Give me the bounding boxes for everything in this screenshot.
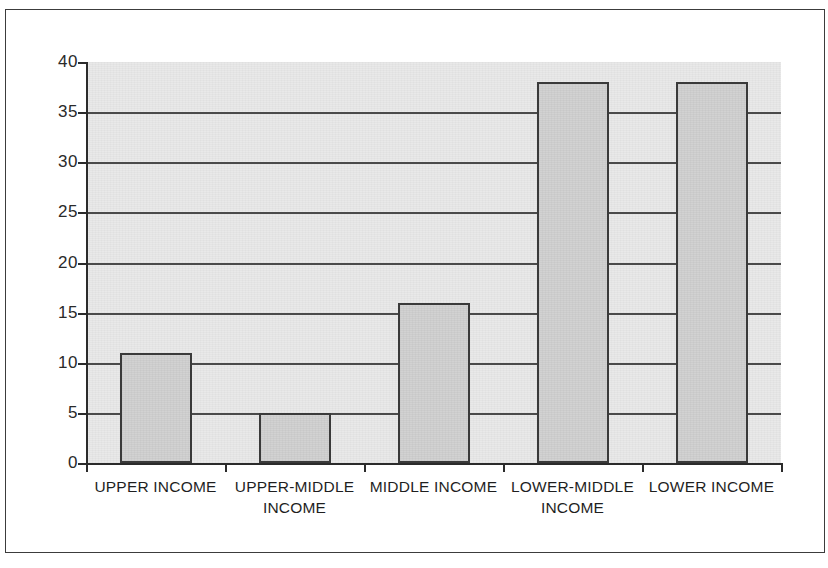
y-axis-tick-20 [78,263,87,265]
y-axis-tick-15 [78,313,87,315]
x-axis-tick-3 [503,463,505,472]
x-axis-tick-4 [642,463,644,472]
y-axis-tick-25 [78,212,87,214]
y-axis-label-40: 40 [30,53,78,70]
bar-texture [678,84,746,461]
bar-lower-middle-income [537,82,609,463]
x-axis-category-labels: UPPER INCOMEUPPER-MIDDLE INCOMEMIDDLE IN… [86,476,783,546]
x-axis-label-upper-middle-income: UPPER-MIDDLE INCOME [221,476,368,518]
y-axis-tick-10 [78,363,87,365]
y-axis-label-10: 10 [30,354,78,371]
bar-lower-income [676,82,748,463]
y-axis-label-35: 35 [30,103,78,120]
x-axis-tick-0 [86,463,88,472]
y-axis-tick-30 [78,162,87,164]
x-axis-tick-1 [225,463,227,472]
bar-texture [539,84,607,461]
x-axis-line [86,463,783,465]
bar-texture [261,415,329,461]
y-axis-tick-labels: 0510152025303540 [18,10,78,552]
x-axis-tick-2 [364,463,366,472]
x-axis-label-lower-income: LOWER INCOME [638,476,785,497]
y-axis-label-0: 0 [30,454,78,471]
y-axis-label-25: 25 [30,203,78,220]
x-axis-tick-end [781,463,783,472]
bar-upper-middle-income [259,413,331,463]
x-axis-label-upper-income: UPPER INCOME [82,476,229,497]
y-axis-tick-5 [78,413,87,415]
x-axis-label-lower-middle-income: LOWER-MIDDLE INCOME [499,476,646,518]
y-axis-label-5: 5 [30,404,78,421]
bar-texture [122,355,190,461]
y-axis-label-15: 15 [30,304,78,321]
y-axis-tick-40 [78,62,87,64]
bar-upper-income [120,353,192,463]
bar-texture [400,305,468,461]
x-axis-label-middle-income: MIDDLE INCOME [360,476,507,497]
y-axis-label-30: 30 [30,153,78,170]
bar-chart-figure: 0510152025303540 UPPER INCOMEUPPER-MIDDL… [6,10,824,552]
bar-middle-income [398,303,470,463]
y-axis-label-20: 20 [30,254,78,271]
plot-area [86,62,781,463]
page-border-frame: 0510152025303540 UPPER INCOMEUPPER-MIDDL… [5,9,825,553]
y-axis-tick-35 [78,112,87,114]
